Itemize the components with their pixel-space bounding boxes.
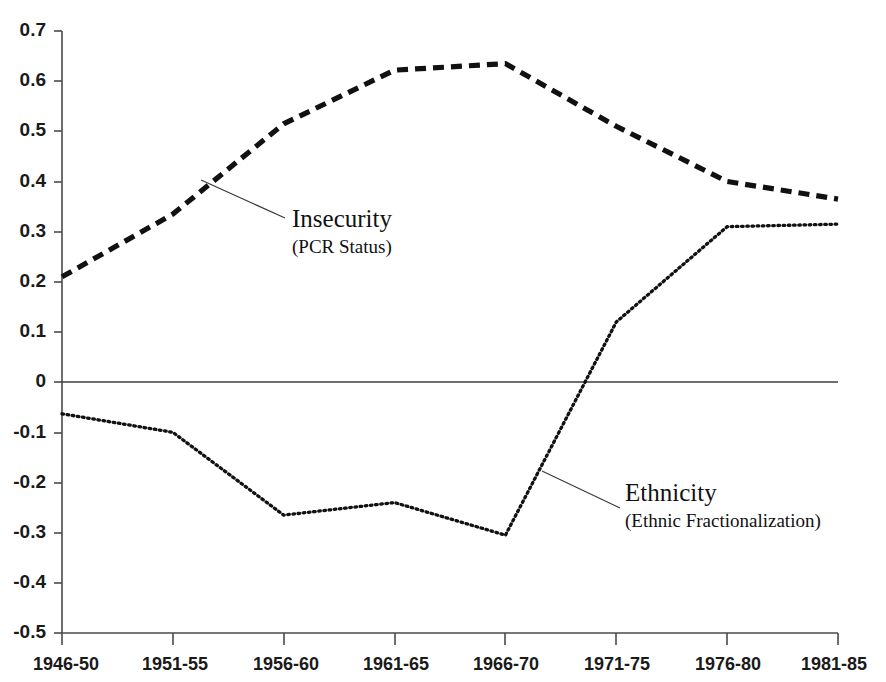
y-tick-label-10: -0.3	[13, 521, 46, 542]
x-tick-labels: 1946-50 1951-55 1956-60 1961-65 1966-70 …	[33, 654, 867, 674]
y-tick-label-6: 0.1	[20, 320, 47, 341]
annotation-sublabel-ethnicity: (Ethnic Fractionalization)	[625, 510, 821, 532]
series-line-insecurity	[62, 64, 838, 277]
y-tick-label-5: 0.2	[20, 270, 46, 291]
annotation-label-ethnicity: Ethnicity	[625, 479, 717, 506]
y-tick-label-12: -0.5	[13, 621, 46, 642]
x-tick-label-7: 1981-85	[801, 654, 867, 674]
x-tick-label-0: 1946-50	[33, 654, 99, 674]
x-tick-label-2: 1956-60	[253, 654, 319, 674]
leader-line-insecurity	[201, 180, 285, 218]
x-tick-label-1: 1951-55	[142, 654, 208, 674]
y-tick-label-9: -0.2	[13, 471, 46, 492]
y-tick-label-2: 0.5	[20, 119, 47, 140]
y-tick-label-8: -0.1	[13, 421, 46, 442]
y-tick-label-3: 0.4	[20, 170, 47, 191]
x-tick-group	[62, 633, 838, 645]
y-tick-label-0: 0.7	[20, 19, 46, 40]
y-tick-label-7: 0	[35, 370, 46, 391]
line-chart: 0.7 0.6 0.5 0.4 0.3 0.2 0.1 0 -0.1 -0.2 …	[0, 0, 886, 682]
y-tick-label-1: 0.6	[20, 69, 46, 90]
annotation-label-insecurity: Insecurity	[292, 205, 392, 232]
x-tick-label-6: 1976-80	[695, 654, 761, 674]
y-tick-group	[54, 31, 62, 633]
series-line-ethnicity	[62, 224, 838, 535]
y-tick-label-4: 0.3	[20, 220, 46, 241]
y-tick-label-11: -0.4	[13, 571, 46, 592]
annotation-sublabel-insecurity: (PCR Status)	[292, 236, 392, 258]
x-tick-label-5: 1971-75	[584, 654, 650, 674]
x-tick-label-4: 1966-70	[473, 654, 539, 674]
leader-line-ethnicity	[542, 471, 620, 508]
x-tick-label-3: 1961-65	[363, 654, 429, 674]
y-tick-labels: 0.7 0.6 0.5 0.4 0.3 0.2 0.1 0 -0.1 -0.2 …	[13, 19, 46, 642]
chart-page: 0.7 0.6 0.5 0.4 0.3 0.2 0.1 0 -0.1 -0.2 …	[0, 0, 886, 682]
